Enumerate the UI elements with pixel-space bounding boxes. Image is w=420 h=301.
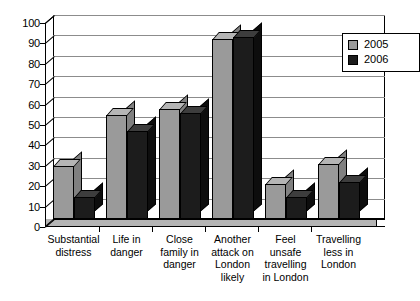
bar-front-face — [233, 37, 254, 219]
bar-2006-3 — [180, 113, 201, 219]
y-axis-label-60: 60 — [14, 100, 40, 111]
x-axis-tick-2 — [99, 226, 100, 232]
bar-front-face — [265, 184, 286, 219]
bar-2005-1 — [53, 166, 74, 219]
legend-swatch-2005-icon — [348, 40, 358, 50]
y-axis-label-80: 80 — [14, 59, 40, 70]
y-axis-label-0: 0 — [14, 222, 40, 233]
x-axis-label-4: Another attack on London likely — [203, 233, 262, 283]
plot-area: 2005 2006 — [45, 15, 385, 227]
y-axis-label-90: 90 — [14, 38, 40, 49]
y-axis-label-20: 20 — [14, 181, 40, 192]
bar-2006-6 — [339, 182, 360, 219]
x-axis-label-2: Life in danger — [97, 233, 156, 258]
bar-front-face — [339, 182, 360, 219]
y-axis-label-100: 100 — [14, 18, 40, 29]
x-axis-label-5: Feel unsafe travelling in London — [256, 233, 315, 283]
bar-front-face — [212, 39, 233, 219]
bar-2005-5 — [265, 184, 286, 219]
bar-front-face — [318, 164, 339, 219]
bar-2006-1 — [74, 197, 95, 219]
bar-front-face — [53, 166, 74, 219]
bar-front-face — [74, 197, 95, 219]
y-axis: 1009080706050403020100 — [14, 0, 40, 301]
x-axis-tick-6 — [311, 226, 312, 232]
y-axis-label-10: 10 — [14, 202, 40, 213]
bar-front-face — [127, 131, 148, 219]
bar-side-face — [200, 98, 209, 212]
y-axis-label-70: 70 — [14, 79, 40, 90]
bar-front-face — [159, 109, 180, 219]
legend-item-2005: 2005 — [348, 37, 415, 52]
y-axis-tick-0 — [40, 227, 45, 228]
bar-side-face — [253, 23, 262, 212]
y-axis-label-30: 30 — [14, 161, 40, 172]
bar-2006-5 — [286, 197, 307, 219]
legend-item-2006: 2006 — [348, 52, 415, 67]
y-axis-label-40: 40 — [14, 140, 40, 151]
x-axis-tick-5 — [258, 226, 259, 232]
x-axis: Substantial distressLife in dangerClose … — [45, 233, 390, 301]
bar-front-face — [180, 113, 201, 219]
bar-2005-4 — [212, 39, 233, 219]
x-axis-label-3: Close family in danger — [150, 233, 209, 271]
bar-2005-3 — [159, 109, 180, 219]
bar-front-face — [106, 115, 127, 219]
legend-swatch-2006-icon — [348, 55, 358, 65]
bar-2005-2 — [106, 115, 127, 219]
bar-2006-4 — [233, 37, 254, 219]
bar-series-group — [45, 15, 385, 227]
bar-2006-2 — [127, 131, 148, 219]
legend-label-2006: 2006 — [364, 54, 388, 65]
x-axis-label-6: Travelling less in London — [309, 233, 368, 271]
y-axis-label-50: 50 — [14, 120, 40, 131]
legend-label-2005: 2005 — [364, 39, 388, 50]
legend: 2005 2006 — [342, 33, 420, 72]
bar-front-face — [286, 197, 307, 219]
x-axis-label-1: Substantial distress — [44, 233, 103, 258]
x-axis-tick-3 — [152, 226, 153, 232]
bar-2005-6 — [318, 164, 339, 219]
x-axis-tick-4 — [205, 226, 206, 232]
